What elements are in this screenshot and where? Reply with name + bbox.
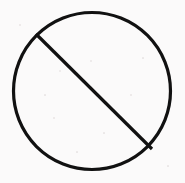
prohibition-symbol-canvas — [0, 0, 185, 183]
prohibition-sign-graphic — [0, 0, 185, 183]
